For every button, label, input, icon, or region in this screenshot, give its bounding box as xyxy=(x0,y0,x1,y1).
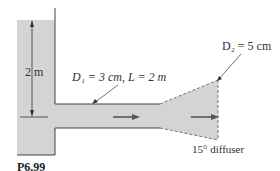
pipe-leader-line xyxy=(94,85,118,103)
height-label: 2 m xyxy=(25,66,43,78)
pipe-label: D₁ = 3 cm, L = 2 m xyxy=(72,71,166,83)
figure-caption: P6.99 xyxy=(17,160,45,171)
outlet-leader-line xyxy=(219,54,241,79)
pipe-fluid xyxy=(55,104,162,128)
tank-fluid xyxy=(17,20,55,155)
pipe-leader-arrow-icon xyxy=(92,99,98,104)
outlet-label: D₂ = 5 cm xyxy=(222,40,271,52)
diffuser-fluid xyxy=(160,80,218,140)
diffuser-label: 15° diffuser xyxy=(192,144,244,155)
